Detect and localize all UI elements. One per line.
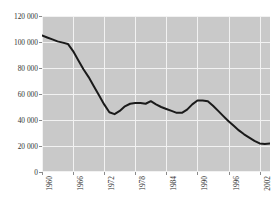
chart-figure: 120 000 100 000 80 000 60 000 40 000 20 … — [0, 0, 280, 211]
x-tick-label: 2002 — [264, 176, 272, 191]
x-tick-label: 1990 — [201, 176, 209, 191]
y-tick-label: 20 000 — [0, 143, 38, 151]
data-series-line — [42, 16, 270, 172]
y-tick-label: 60 000 — [0, 91, 38, 99]
y-tick-label: 40 000 — [0, 117, 38, 125]
y-tick-label: 100 000 — [0, 39, 38, 47]
x-tick-mark — [229, 172, 230, 175]
y-tick-label: 0 — [0, 169, 38, 177]
x-tick-mark — [260, 172, 261, 175]
x-tick-mark — [73, 172, 74, 175]
x-tick-label: 1966 — [77, 176, 85, 191]
y-tick-label: 80 000 — [0, 65, 38, 73]
x-tick-label: 1978 — [139, 176, 147, 191]
x-tick-label: 1960 — [46, 176, 54, 191]
x-tick-mark — [135, 172, 136, 175]
x-tick-label: 1996 — [233, 176, 241, 191]
x-tick-mark — [104, 172, 105, 175]
x-tick-mark — [197, 172, 198, 175]
x-tick-label: 1984 — [170, 176, 178, 191]
y-tick-label: 120 000 — [0, 13, 38, 21]
x-tick-label: 1972 — [108, 176, 116, 191]
plot-area — [42, 16, 270, 172]
x-tick-mark — [166, 172, 167, 175]
x-tick-mark — [42, 172, 43, 175]
